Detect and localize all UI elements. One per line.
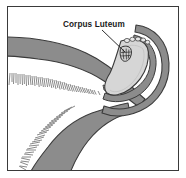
illustration-canvas: Corpus Luteum: [8, 7, 178, 170]
figure-frame: Corpus Luteum: [0, 0, 186, 178]
label-corpus-luteum: Corpus Luteum: [63, 20, 125, 29]
anatomy-diagram: Corpus Luteum: [8, 7, 178, 170]
